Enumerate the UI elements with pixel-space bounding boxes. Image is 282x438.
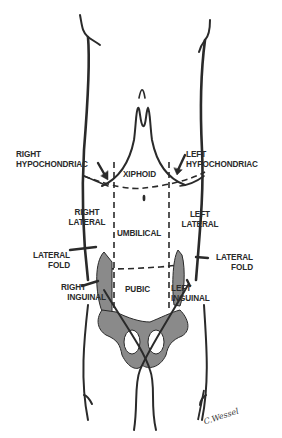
label-left-lateral-fold: LATERAL FOLD	[203, 253, 253, 273]
label-line: LATERAL	[64, 218, 110, 228]
label-line: FOLD	[203, 263, 253, 273]
label-left-lateral: LEFT LATERAL	[178, 210, 222, 230]
label-right-inguinal: RIGHT INGUINAL	[52, 283, 106, 303]
left-outer-leg	[202, 305, 207, 420]
abdominal-regions-drawing	[0, 0, 282, 438]
label-line: HYPOCHONDRIAC	[186, 160, 258, 170]
label-right-hypochondriac: RIGHT HYPOCHONDRIAC	[16, 150, 88, 170]
arrow-right-lateral-fold	[70, 247, 96, 250]
label-line: HYPOCHONDRIAC	[16, 160, 88, 170]
label-pubic: PUBIC	[125, 285, 150, 295]
label-line: LATERAL	[178, 220, 222, 230]
right-arm-outline	[80, 15, 100, 45]
label-line: INGUINAL	[52, 293, 106, 303]
label-line: LEFT	[186, 150, 258, 160]
label-line: INGUINAL	[171, 294, 210, 304]
arrow-left-hypochondriac	[178, 155, 185, 170]
label-left-hypochondriac: LEFT HYPOCHONDRIAC	[186, 150, 258, 170]
label-xiphoid: XIPHOID	[123, 170, 156, 180]
pelvic-girdle	[98, 310, 188, 368]
label-umbilical: UMBILICAL	[117, 229, 161, 239]
label-line: RIGHT	[52, 283, 86, 293]
body-outline	[80, 15, 210, 280]
label-line: FOLD	[20, 261, 70, 271]
label-line: LATERAL	[20, 251, 70, 261]
label-right-lateral-fold: LATERAL FOLD	[20, 251, 70, 271]
label-right-lateral: RIGHT LATERAL	[64, 208, 110, 228]
label-line: LATERAL	[203, 253, 253, 263]
umbilicus	[143, 195, 146, 201]
xiphoid-tip	[139, 90, 145, 98]
label-line: RIGHT	[16, 150, 88, 160]
right-outer-leg	[83, 305, 88, 420]
label-left-inguinal: LEFT INGUINAL	[171, 284, 210, 304]
label-line: LEFT	[178, 210, 222, 220]
label-line: RIGHT	[64, 208, 110, 218]
label-line: LEFT	[171, 284, 210, 294]
